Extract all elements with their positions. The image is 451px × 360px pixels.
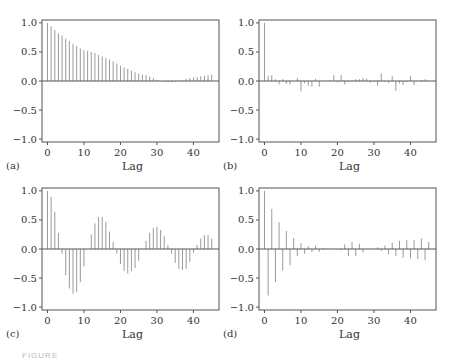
x-tick-label: 0 — [44, 315, 50, 326]
acf-panel-c: −1.0−0.50.00.51.0010203040Lag(c) — [6, 185, 219, 341]
x-tick-label: 0 — [261, 315, 267, 326]
panel-label: (c) — [6, 328, 20, 339]
x-tick-label: 30 — [151, 315, 164, 326]
x-axis-label: Lag — [339, 160, 360, 173]
x-tick-label: 30 — [151, 147, 164, 158]
y-tick-label: 0.5 — [238, 214, 254, 225]
y-tick-label: 1.0 — [238, 185, 254, 196]
x-tick-label: 20 — [114, 147, 127, 158]
x-tick-label: 10 — [78, 315, 91, 326]
panel-label: (a) — [6, 160, 20, 171]
x-tick-label: 40 — [404, 315, 417, 326]
panel-label: (b) — [223, 160, 237, 171]
x-tick-label: 20 — [331, 147, 344, 158]
x-tick-label: 30 — [368, 147, 381, 158]
y-tick-label: −0.5 — [230, 105, 254, 116]
x-tick-label: 0 — [44, 147, 50, 158]
x-tick-label: 20 — [114, 315, 127, 326]
x-axis-label: Lag — [339, 328, 360, 341]
acf-panel-a: −1.0−0.50.00.51.0010203040Lag(a) — [6, 17, 219, 173]
acf-panel-d: −1.0−0.50.00.51.0010203040Lag(d) — [223, 185, 436, 341]
y-tick-label: −0.5 — [230, 273, 254, 284]
y-tick-label: 0.5 — [238, 46, 254, 57]
x-tick-label: 0 — [261, 147, 267, 158]
y-tick-label: 0.0 — [238, 244, 254, 255]
panel-label: (d) — [223, 328, 237, 339]
y-tick-label: 1.0 — [21, 17, 37, 28]
y-tick-label: −1.0 — [230, 302, 254, 313]
x-tick-label: 40 — [187, 315, 200, 326]
y-tick-label: 1.0 — [21, 185, 37, 196]
x-tick-label: 30 — [368, 315, 381, 326]
x-tick-label: 40 — [404, 147, 417, 158]
y-tick-label: 0.5 — [21, 214, 37, 225]
y-tick-label: 0.0 — [21, 244, 37, 255]
y-tick-label: 0.0 — [238, 76, 254, 87]
x-tick-label: 10 — [78, 147, 91, 158]
y-tick-label: −0.5 — [13, 105, 37, 116]
x-axis-label: Lag — [122, 328, 143, 341]
acf-panel-b: −1.0−0.50.00.51.0010203040Lag(b) — [223, 17, 436, 173]
y-tick-label: 0.0 — [21, 76, 37, 87]
y-tick-label: −1.0 — [13, 134, 37, 145]
y-tick-label: −0.5 — [13, 273, 37, 284]
y-tick-label: −1.0 — [230, 134, 254, 145]
x-tick-label: 10 — [295, 315, 308, 326]
y-tick-label: −1.0 — [13, 302, 37, 313]
y-tick-label: 1.0 — [238, 17, 254, 28]
x-tick-label: 10 — [295, 147, 308, 158]
x-tick-label: 40 — [187, 147, 200, 158]
x-tick-label: 20 — [331, 315, 344, 326]
y-tick-label: 0.5 — [21, 46, 37, 57]
figure-caption-partial: FIGURE — [22, 351, 58, 360]
x-axis-label: Lag — [122, 160, 143, 173]
